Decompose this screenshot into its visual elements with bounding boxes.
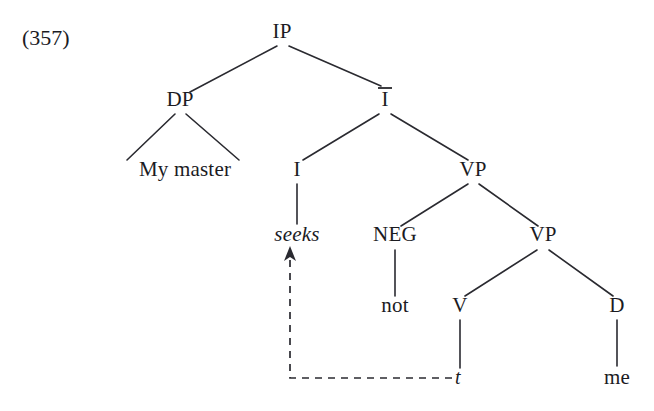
node-label-me: me (604, 365, 630, 389)
node-label-i-head: I (293, 157, 300, 181)
node-label-my-master: My master (139, 157, 231, 181)
node-label-seeks: seeks (274, 222, 319, 246)
syntax-tree-canvas: (357) IP DP I My master (0, 0, 654, 411)
node-label-i-bar: I (381, 87, 388, 111)
syntax-tree-figure: (357) IP DP I My master (0, 0, 654, 411)
node-label-dp: DP (166, 87, 193, 111)
node-label-vp-lower: VP (529, 222, 556, 246)
example-number-label: (357) (22, 25, 70, 50)
node-label-trace: t (455, 366, 461, 388)
node-label-v: V (452, 293, 467, 317)
node-label-d: D (609, 293, 624, 317)
node-label-neg: NEG (373, 222, 417, 246)
node-label-not: not (381, 293, 408, 317)
node-label-ip: IP (272, 19, 291, 43)
node-label-vp-upper: VP (459, 157, 486, 181)
